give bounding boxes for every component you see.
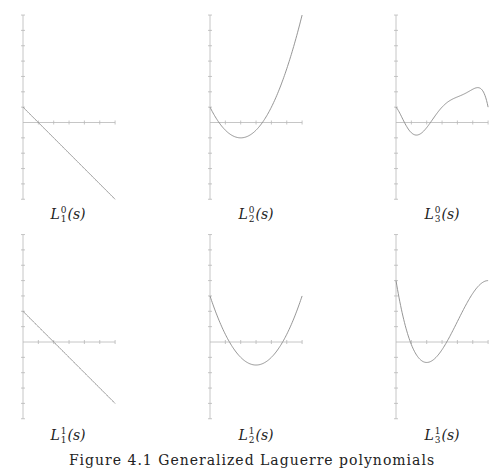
figure-caption: Figure 4.1 Generalized Laguerre polynomi…: [0, 452, 504, 468]
panel-label-4: L11(s): [50, 427, 85, 445]
panel-label-6: L13(s): [424, 427, 459, 445]
panel-label-5: L12(s): [238, 427, 273, 445]
curve-2: [210, 15, 302, 138]
curve-4: [23, 311, 115, 403]
panel-label-3: L03(s): [424, 206, 459, 224]
curve-3: [396, 88, 488, 135]
panel-label-2: L02(s): [238, 206, 273, 224]
curve-6: [396, 281, 488, 363]
curve-5: [210, 296, 302, 365]
panel-label-1: L01(s): [50, 206, 85, 224]
